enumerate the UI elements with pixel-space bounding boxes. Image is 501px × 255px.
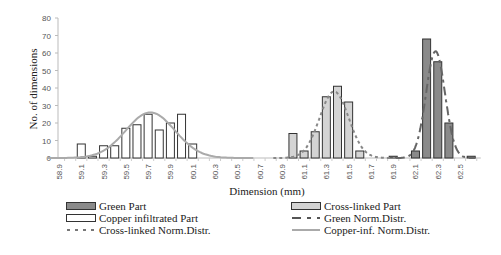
- x-tick-label: 61.3: [322, 163, 331, 179]
- y-tick-label: 20: [42, 119, 51, 128]
- histogram-bar: [155, 130, 163, 158]
- legend-label: Cross-linked Norm.Distr.: [99, 224, 211, 236]
- histogram-bar: [111, 146, 119, 158]
- histogram-bar: [133, 125, 141, 158]
- copper-part-swatch-icon: [66, 214, 96, 222]
- legend-item-crosslinked-distr: Cross-linked Norm.Distr.: [66, 224, 211, 236]
- y-tick-label: 40: [42, 84, 51, 93]
- solid-line-icon: [291, 226, 321, 234]
- legend-label: Green Norm.Distr.: [324, 212, 406, 224]
- x-tick-label: 59.5: [122, 163, 131, 179]
- legend-right: Cross-linked Part Green Norm.Distr. Copp…: [291, 200, 430, 236]
- legend-item-green-part: Green Part: [66, 200, 211, 212]
- legend-label: Copper-inf. Norm.Distr.: [324, 224, 430, 236]
- distribution-curves: [47, 51, 475, 158]
- legend-item-green-distr: Green Norm.Distr.: [291, 212, 430, 224]
- x-tick-label: 60.9: [278, 163, 287, 179]
- histogram-bar: [289, 134, 297, 159]
- crosslinked-part-swatch-icon: [291, 202, 321, 210]
- legend-label: Green Part: [99, 200, 146, 212]
- y-axis-title: No. of dimensions: [27, 49, 39, 130]
- y-tick-label: 30: [42, 102, 51, 111]
- x-tick-label: 60.1: [189, 163, 198, 179]
- histogram-bar: [144, 114, 152, 158]
- x-tick-label: 61.1: [300, 163, 309, 179]
- histogram-bar: [434, 62, 442, 158]
- x-tick-label: 58.9: [55, 163, 64, 179]
- histogram-bar: [356, 151, 364, 158]
- x-tick-label: 59.3: [100, 163, 109, 179]
- histogram-bar: [345, 102, 353, 158]
- x-tick-label: 60.5: [233, 163, 242, 179]
- x-axis-title: Dimension (mm): [229, 185, 305, 198]
- legend-item-copper-part: Copper infiltrated Part: [66, 212, 211, 224]
- legend-label: Copper infiltrated Part: [99, 212, 198, 224]
- legend-left: Green Part Copper infiltrated Part Cross…: [66, 200, 211, 236]
- legend-label: Cross-linked Part: [324, 200, 401, 212]
- x-tick-label: 61.5: [345, 163, 354, 179]
- x-tick-label: 62.1: [411, 163, 420, 179]
- x-tick-label: 59.7: [144, 163, 153, 179]
- x-axis: 58.959.159.359.559.759.960.160.360.560.7…: [55, 158, 481, 180]
- y-tick-label: 10: [42, 137, 51, 146]
- x-tick-label: 62.5: [456, 163, 465, 179]
- legend-item-crosslinked-part: Cross-linked Part: [291, 200, 430, 212]
- x-tick-label: 62.3: [434, 163, 443, 179]
- y-tick-label: 70: [42, 32, 51, 41]
- x-tick-label: 59.9: [166, 163, 175, 179]
- y-axis: 01020304050607080: [42, 14, 58, 163]
- legend-item-copper-distr: Copper-inf. Norm.Distr.: [291, 224, 430, 236]
- y-tick-label: 60: [42, 49, 51, 58]
- bars: [77, 39, 475, 158]
- dash-dot-line-icon: [291, 214, 321, 222]
- dashed-line-icon: [66, 226, 96, 234]
- histogram-bar: [322, 97, 330, 158]
- histogram-bar: [300, 151, 308, 158]
- y-tick-label: 80: [42, 14, 51, 23]
- x-tick-label: 60.7: [256, 163, 265, 179]
- x-tick-label: 61.7: [367, 163, 376, 179]
- y-tick-label: 50: [42, 67, 51, 76]
- x-tick-label: 59.1: [77, 163, 86, 179]
- histogram-bar: [423, 39, 431, 158]
- green-part-swatch-icon: [66, 202, 96, 210]
- x-tick-label: 60.3: [211, 163, 220, 179]
- x-tick-label: 61.9: [389, 163, 398, 179]
- histogram-bar: [411, 151, 419, 158]
